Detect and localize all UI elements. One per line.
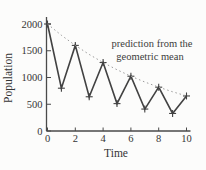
annotation-prediction-line1: prediction from the (111, 38, 192, 49)
y-axis-title: Population (2, 53, 15, 103)
x-axis-title: Time (104, 147, 128, 159)
x-tick-label: 8 (156, 133, 161, 144)
y-tick-label: 0 (37, 126, 42, 137)
y-tick-label: 500 (27, 99, 43, 110)
population-vs-time-chart: 05001000150020000246810 prediction from … (0, 0, 206, 170)
x-tick-label: 2 (73, 133, 78, 144)
annotation-prediction-line2: geometric mean (116, 51, 184, 62)
x-tick-label: 6 (128, 133, 133, 144)
x-tick-label: 4 (100, 133, 106, 144)
y-tick-label: 1500 (22, 45, 43, 56)
y-tick-label: 1000 (22, 72, 43, 83)
population-chart-figure: 05001000150020000246810 prediction from … (0, 0, 206, 170)
x-tick-label: 0 (45, 133, 50, 144)
y-tick-label: 2000 (22, 19, 43, 30)
x-tick-label: 10 (181, 133, 192, 144)
plot-area: 05001000150020000246810 (22, 17, 192, 144)
